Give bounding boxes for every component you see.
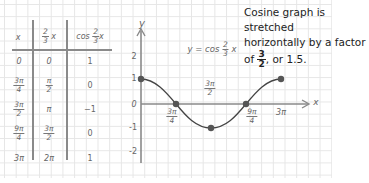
x-label-3pi-2: 3π2 [204, 80, 215, 97]
x-label-3pi: 3π [276, 108, 286, 117]
y-tick-1: 1 [131, 74, 136, 83]
y-axis-label: y [139, 18, 145, 29]
y-tick-2: 2 [131, 52, 136, 61]
point-0-1 [138, 76, 144, 82]
y-tick-0: 0 [131, 100, 136, 109]
x-label-9pi-4: 9π4 [246, 108, 257, 125]
point-3pi2-neg1 [208, 125, 214, 131]
equation-label: y = cos 23 x [187, 41, 236, 58]
x-axis-label: x [313, 97, 318, 107]
point-3pi-1 [278, 76, 284, 82]
y-tick-neg2: -2 [129, 147, 137, 156]
stretch-annotation: Cosine graph is stretched horizontally b… [244, 5, 369, 69]
x-label-3pi-4: 3π4 [166, 108, 177, 125]
note-line-3: of 32, or 1.5. [244, 50, 369, 69]
y-tick-neg1: -1 [129, 123, 137, 132]
note-line-1: Cosine graph is stretched [244, 5, 369, 35]
note-line-2: horizontally by a factor [244, 35, 369, 50]
